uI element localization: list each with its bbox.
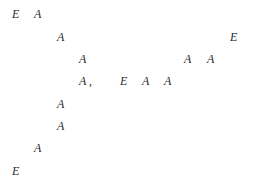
glyph-a-2: A: [57, 31, 64, 43]
glyph-a-1: A: [34, 8, 41, 20]
glyph-e-1: E: [12, 8, 19, 20]
glyph-a-6: A: [142, 75, 149, 87]
glyph-a-4: A: [184, 53, 191, 65]
glyph-e-2: E: [230, 31, 237, 43]
glyph-a-5: A: [207, 53, 214, 65]
glyph-a-9: A: [57, 120, 64, 132]
glyph-a-8: A: [57, 98, 64, 110]
glyph-e-4: E: [12, 165, 19, 177]
glyph-a-7: A: [164, 75, 171, 87]
glyph-a-10: A: [34, 142, 41, 154]
glyph-e-3: E: [120, 75, 127, 87]
glyph-a-comma: A ,: [79, 75, 92, 87]
glyph-a-3: A: [79, 53, 86, 65]
